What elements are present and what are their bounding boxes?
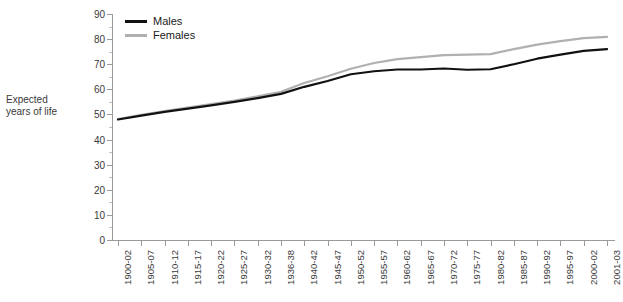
plot-area: 0102030405060708090 1900-021905-071910-1… (112, 14, 615, 240)
x-axis-tick-label: 1905-07 (145, 250, 156, 285)
x-axis-tick-label: 1985-87 (518, 250, 529, 285)
x-axis-tick-label: 1900-02 (122, 250, 133, 285)
x-axis-tick (397, 241, 398, 246)
y-axis-tick-label: 40 (94, 134, 105, 145)
series-line-females (118, 37, 607, 119)
y-axis-tick-label: 80 (94, 34, 105, 45)
x-axis-tick-label: 1936-38 (285, 250, 296, 285)
x-axis-tick (537, 241, 538, 246)
x-axis-tick (444, 241, 445, 246)
y-axis-tick-label: 70 (94, 59, 105, 70)
x-axis-tick-label: 1910-12 (169, 250, 180, 285)
x-axis-tick-label: 1945-47 (332, 250, 343, 285)
legend-entry-males: Males (125, 14, 195, 28)
legend-entry-females: Females (125, 28, 195, 42)
y-axis-tick-label: 60 (94, 84, 105, 95)
legend-label-females: Females (153, 29, 195, 41)
x-axis-tick (258, 241, 259, 246)
x-axis-tick (188, 241, 189, 246)
x-axis-tick (281, 241, 282, 246)
x-axis-tick-label: 1990-92 (541, 250, 552, 285)
x-axis-tick (304, 241, 305, 246)
x-axis-tick (491, 241, 492, 246)
x-axis-tick-label: 1915-17 (192, 250, 203, 285)
legend-label-males: Males (153, 15, 182, 27)
y-axis-tick-label: 10 (94, 209, 105, 220)
x-axis-tick (211, 241, 212, 246)
x-axis-tick-label: 1975-77 (471, 250, 482, 285)
y-axis-tick-label: 50 (94, 109, 105, 120)
y-axis-title: Expected years of life (6, 94, 88, 118)
x-axis-tick-label: 1940-42 (308, 250, 319, 285)
x-axis-tick-label: 2000-02 (588, 250, 599, 285)
x-axis-tick (374, 241, 375, 246)
x-axis-tick (607, 241, 608, 246)
x-axis-tick (165, 241, 166, 246)
x-axis-tick (467, 241, 468, 246)
x-axis-tick-label: 1960-62 (401, 250, 412, 285)
x-axis-tick-label: 1950-52 (355, 250, 366, 285)
x-axis-tick-label: 1920-22 (215, 250, 226, 285)
y-axis-title-line-1: Expected (6, 94, 88, 106)
x-axis-tick (584, 241, 585, 246)
x-axis-tick-label: 1955-57 (378, 250, 389, 285)
x-axis-tick-label: 2001-03 (611, 250, 622, 285)
x-axis-tick-label: 1970-72 (448, 250, 459, 285)
life-expectancy-line-chart: Expected years of life Males Females 010… (0, 0, 623, 302)
y-axis-title-line-2: years of life (6, 106, 88, 118)
y-axis-tick-label: 20 (94, 184, 105, 195)
series-layer (112, 14, 615, 241)
x-axis-tick (560, 241, 561, 246)
y-axis-tick-label: 30 (94, 159, 105, 170)
legend-swatch-males (125, 20, 147, 23)
x-axis-tick (118, 241, 119, 246)
series-line-males (118, 49, 607, 119)
x-axis-tick (328, 241, 329, 246)
x-axis-tick (421, 241, 422, 246)
y-axis-tick-label: 90 (94, 9, 105, 20)
x-axis-tick-label: 1925-27 (238, 250, 249, 285)
x-axis-tick (514, 241, 515, 246)
x-axis-tick-label: 1980-82 (495, 250, 506, 285)
x-axis-tick-label: 1965-67 (425, 250, 436, 285)
x-axis-tick (141, 241, 142, 246)
x-axis-tick (234, 241, 235, 246)
chart-legend: Males Females (125, 14, 195, 42)
x-axis-tick-label: 1995-97 (564, 250, 575, 285)
legend-swatch-females (125, 34, 147, 37)
y-axis-tick-label: 0 (99, 235, 105, 246)
x-axis-tick (351, 241, 352, 246)
x-axis-tick-label: 1930-32 (262, 250, 273, 285)
